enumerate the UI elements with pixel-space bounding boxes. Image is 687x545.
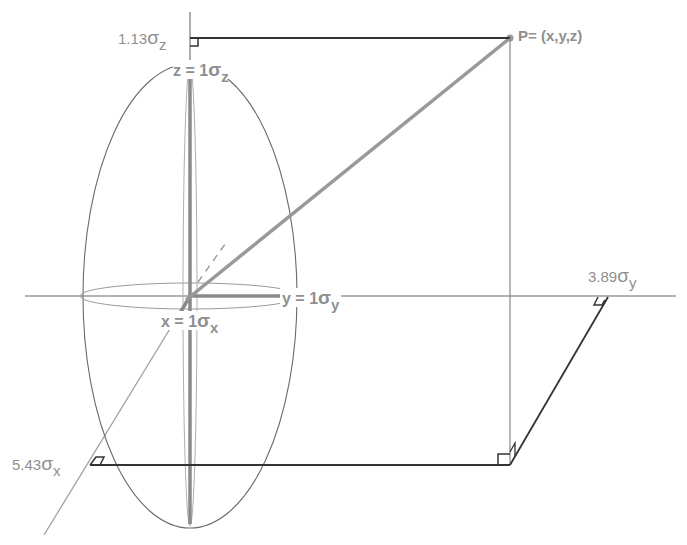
z-unit-label: z = 1σz	[173, 60, 229, 79]
sigma-symbol: σ	[197, 310, 210, 331]
z-projection-label: 1.13σz	[118, 28, 166, 47]
z-unit-prefix: z = 1	[173, 62, 208, 79]
x-projection-label: 5.43σx	[12, 454, 60, 473]
y-projection-label: 3.89σy	[588, 266, 636, 285]
x-unit-label: x = 1σx	[160, 311, 219, 330]
y-unit-prefix: y = 1	[282, 290, 318, 307]
point-p-label: P= (x,y,z)	[518, 28, 582, 43]
sigma-symbol: σ	[318, 287, 331, 308]
y-unit-label: y = 1σy	[280, 288, 341, 307]
subscript: y	[331, 296, 339, 313]
diagram-svg	[0, 0, 687, 545]
x-axis	[44, 296, 190, 535]
x-proj-value: 5.43	[12, 456, 41, 473]
subscript: z	[159, 36, 167, 53]
sigma-symbol: σ	[41, 453, 53, 474]
sigma-symbol: σ	[147, 27, 159, 48]
sigma-symbol: σ	[617, 265, 629, 286]
dashed-direction	[198, 240, 228, 282]
subscript: z	[221, 68, 229, 85]
y-right-angle-icon	[594, 297, 605, 305]
subscript: x	[53, 462, 61, 479]
subscript: x	[210, 319, 218, 336]
y-proj-value: 3.89	[588, 268, 617, 285]
subscript: y	[629, 274, 637, 291]
y-projection-line	[510, 297, 608, 465]
corner-right-angle-icon	[498, 454, 510, 465]
x-unit-prefix: x = 1	[161, 313, 197, 330]
sigma-symbol: σ	[208, 59, 221, 80]
z-right-angle-icon	[190, 38, 198, 46]
ellipsoid-projection-diagram: 1.13σz z = 1σz P= (x,y,z) y = 1σy x = 1σ…	[0, 0, 687, 545]
vector-to-p	[186, 38, 510, 300]
z-proj-value: 1.13	[118, 30, 147, 47]
corner-right-angle-icon-2	[510, 443, 515, 457]
x-right-angle-icon	[90, 457, 104, 465]
